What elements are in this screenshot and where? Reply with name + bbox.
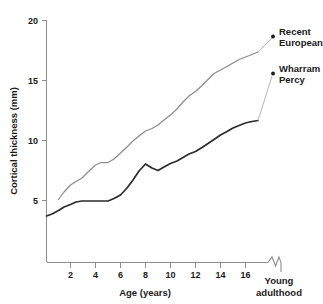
axis-break-label-line2: adulthood [256, 287, 302, 298]
series-label-recent-european-line1: Recent [279, 26, 312, 37]
leader-line-recent-european [258, 38, 272, 52]
x-tick-label-8: 8 [143, 270, 148, 280]
series-label-wharram-percy-line1: Wharram [279, 63, 320, 74]
x-tick-label-2: 2 [68, 270, 73, 280]
axis-break-label-line1: Young [265, 275, 294, 286]
chart-svg: 20 15 10 5 2 4 6 8 10 12 14 16 Young adu… [0, 0, 323, 304]
y-tick-label-5: 5 [33, 196, 38, 206]
y-tick-label-20: 20 [28, 16, 38, 26]
endpoint-dot-wharram-percy [271, 72, 275, 76]
x-tick-label-12: 12 [190, 270, 200, 280]
axis-break-squiggle [268, 257, 281, 272]
endpoint-dot-recent-european [271, 35, 275, 39]
series-line-recent-european [59, 52, 259, 200]
x-tick-label-6: 6 [118, 270, 123, 280]
x-axis-title: Age (years) [119, 287, 171, 298]
x-tick-label-10: 10 [165, 270, 175, 280]
x-tick-label-4: 4 [93, 270, 98, 280]
cortical-thickness-chart: 20 15 10 5 2 4 6 8 10 12 14 16 Young adu… [0, 0, 323, 304]
x-tick-label-14: 14 [215, 270, 225, 280]
leader-line-wharram-percy [258, 76, 272, 121]
x-tick-label-16: 16 [240, 270, 250, 280]
series-line-wharram-percy [47, 121, 259, 217]
y-tick-label-10: 10 [28, 136, 38, 146]
series-label-wharram-percy-line2: Percy [279, 74, 306, 85]
y-tick-label-15: 15 [28, 76, 38, 86]
y-axis-title: Cortical thickness (mm) [8, 87, 19, 195]
series-label-recent-european-line2: European [279, 37, 323, 48]
